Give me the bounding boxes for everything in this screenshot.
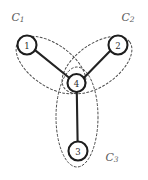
cluster-graph-figure: 1 2 3 4 C1 C2 C3	[0, 0, 148, 180]
graph-edges	[35, 50, 110, 141]
edge-node2-node4	[84, 51, 110, 78]
diagram-canvas: 1 2 3 4 C1 C2 C3	[0, 0, 148, 180]
node-2[interactable]: 2	[109, 36, 128, 55]
node-1[interactable]: 1	[18, 36, 37, 55]
edge-node3-node4	[77, 92, 78, 142]
cluster-label-c2: C2	[121, 11, 134, 24]
cluster-label-c3: C3	[105, 151, 118, 164]
node-4[interactable]: 4	[68, 74, 86, 92]
node-3[interactable]: 3	[69, 142, 88, 161]
edge-node1-node4	[35, 50, 69, 78]
node-1-label: 1	[24, 41, 29, 51]
graph-nodes: 1 2 3 4	[18, 36, 128, 161]
node-4-label: 4	[74, 79, 79, 89]
node-2-label: 2	[115, 41, 120, 51]
node-3-label: 3	[75, 147, 80, 157]
cluster-label-c1: C1	[11, 11, 24, 24]
